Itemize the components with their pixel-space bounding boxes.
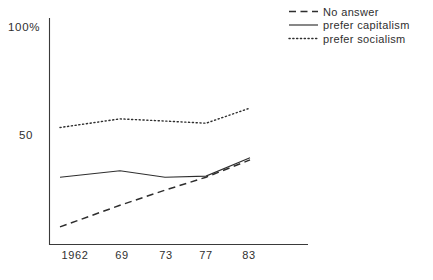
series-line-prefer-socialism <box>60 108 250 127</box>
legend-label-prefer-capitalism: prefer capitalism <box>323 19 410 31</box>
x-tick-label-83: 83 <box>242 249 255 261</box>
y-tick-label-50: 50 <box>19 129 33 141</box>
x-tick-label-1962: 1962 <box>62 249 89 261</box>
chart-figure: 100% 50 1962 69 73 77 83 No answer prefe… <box>0 0 433 280</box>
legend-label-prefer-socialism: prefer socialism <box>323 33 406 45</box>
legend-label-no-answer: No answer <box>323 6 379 18</box>
x-tick-label-69: 69 <box>115 249 128 261</box>
series-group <box>60 108 250 227</box>
series-line-prefer-capitalism <box>60 158 250 177</box>
x-tick-label-77: 77 <box>199 249 212 261</box>
chart-legend: No answer prefer capitalism prefer socia… <box>289 6 410 45</box>
y-tick-label-100: 100% <box>8 21 40 33</box>
line-chart-canvas: 100% 50 1962 69 73 77 83 No answer prefe… <box>0 0 433 280</box>
x-tick-label-73: 73 <box>159 249 172 261</box>
